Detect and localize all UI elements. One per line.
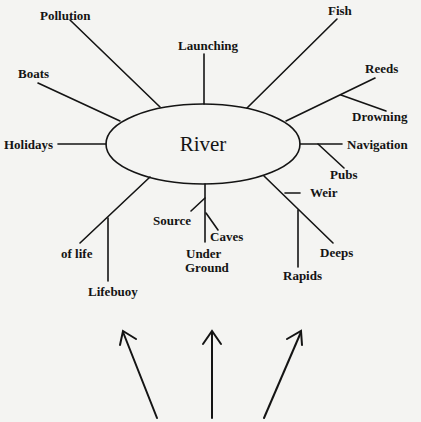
branch-launching: Launching (178, 38, 238, 104)
branch-reeds: Reeds Drowning (286, 61, 408, 124)
branch-deeps: Weir Deeps Rapids (264, 176, 353, 283)
branch-fish: Fish (247, 3, 353, 108)
branch-boats: Boats (18, 66, 120, 121)
label-pollution: Pollution (40, 8, 91, 23)
label-ground: Ground (185, 260, 230, 275)
arrow-up-right-icon (264, 331, 302, 418)
arrow-up-left-icon (120, 331, 157, 418)
arrow-up-center-icon (203, 331, 221, 418)
connector-line (80, 177, 150, 243)
label-caves: Caves (210, 229, 243, 244)
connector-line (318, 144, 344, 168)
branch-navigation: Navigation Pubs (300, 137, 408, 182)
river-mind-map: River Pollution Launching Fish Reeds Dro… (0, 0, 421, 422)
label-boats: Boats (18, 66, 49, 81)
branch-of-life: of life Lifebuoy (61, 177, 150, 299)
label-navigation: Navigation (347, 137, 408, 152)
label-launching: Launching (178, 38, 238, 53)
branch-under-ground: Source Caves Under Ground (153, 184, 243, 275)
connector-line (191, 198, 205, 211)
label-of-life: of life (61, 246, 93, 261)
connector-line (38, 83, 120, 121)
label-weir: Weir (310, 185, 338, 200)
label-rapids: Rapids (283, 268, 322, 283)
label-holidays: Holidays (4, 137, 53, 152)
label-source: Source (153, 213, 191, 228)
center-label: River (180, 132, 227, 156)
label-under: Under (186, 246, 222, 261)
branch-holidays: Holidays (4, 137, 106, 152)
label-reeds: Reeds (365, 61, 398, 76)
label-fish: Fish (328, 3, 353, 18)
connector-line (206, 213, 218, 230)
connector-line (70, 20, 160, 107)
center-node: River (106, 104, 300, 184)
label-pubs: Pubs (330, 167, 357, 182)
label-lifebuoy: Lifebuoy (88, 284, 138, 299)
label-deeps: Deeps (320, 245, 353, 260)
label-drowning: Drowning (352, 109, 408, 124)
arrows-group (120, 331, 302, 418)
connector-line (247, 19, 337, 108)
